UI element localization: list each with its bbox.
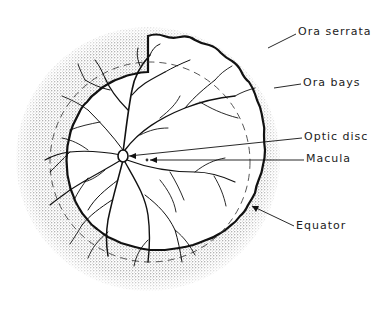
optic-disc [118,150,128,162]
label-macula: Macula [306,153,351,165]
label-optic-disc: Optic disc [304,131,368,143]
macula [146,159,149,162]
label-equator: Equator [296,220,346,232]
label-ora-serrata: Ora serrata [298,26,372,38]
label-ora-bays: Ora bays [303,77,360,89]
